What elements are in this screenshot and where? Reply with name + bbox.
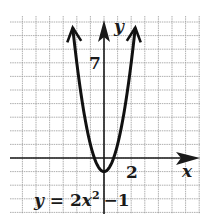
equation-constant: −1 bbox=[104, 190, 130, 210]
equation-exponent: 2 bbox=[92, 189, 100, 202]
equation-label: y = 2x2−1 bbox=[33, 189, 130, 210]
y-axis-label: y bbox=[113, 16, 125, 36]
y-tick-label-7: 7 bbox=[89, 53, 101, 73]
grid-lines bbox=[10, 16, 200, 214]
x-tick-label-2: 2 bbox=[126, 162, 138, 182]
parabola-graph: 7 2 y x y = 2x2−1 bbox=[0, 0, 212, 224]
x-axis-label: x bbox=[181, 161, 193, 181]
equation-mid: = 2 bbox=[44, 190, 82, 210]
